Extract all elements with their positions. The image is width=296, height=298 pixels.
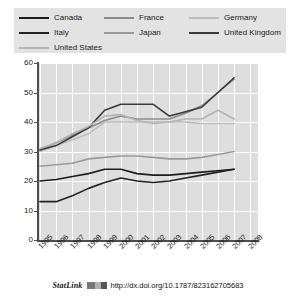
y-axis-tick (34, 122, 37, 123)
y-axis-tick (34, 211, 37, 212)
x-axis-tick-label: 1996 (53, 233, 70, 250)
y-axis-tick (34, 93, 37, 94)
chart-page: CanadaFranceGermanyItalyJapanUnited King… (0, 0, 296, 298)
y-axis-tick (34, 181, 37, 182)
x-axis-tick-label: 2004 (183, 233, 200, 250)
x-axis-tick-label: 2008 (247, 233, 264, 250)
statlink-footer: StatLink http://dx.doi.org/10.1787/82316… (0, 278, 296, 292)
x-axis-tick-label: 2003 (166, 233, 183, 250)
x-axis-tick-label: 1995 (37, 233, 54, 250)
y-axis-tick (34, 152, 37, 153)
y-axis-tick (34, 240, 37, 241)
y-axis-tick (34, 63, 37, 64)
x-axis-tick-label: 2002 (150, 233, 167, 250)
x-axis-tick-label: 1997 (69, 233, 86, 250)
x-axis-labels: 1995199619971998199920002001200220032004… (0, 0, 296, 298)
x-axis-tick-label: 2007 (231, 233, 248, 250)
statlink-label: StatLink (52, 281, 82, 290)
x-axis-tick-label: 2005 (199, 233, 216, 250)
x-axis-tick-label: 2001 (134, 233, 151, 250)
statlink-barcode-icon (87, 282, 107, 289)
x-axis-tick-label: 2000 (118, 233, 135, 250)
x-axis-tick-label: 2006 (215, 233, 232, 250)
x-axis-tick-label: 1999 (102, 233, 119, 250)
x-axis-tick-label: 1998 (86, 233, 103, 250)
statlink-doi-link[interactable]: http://dx.doi.org/10.1787/823162705683 (111, 281, 244, 290)
